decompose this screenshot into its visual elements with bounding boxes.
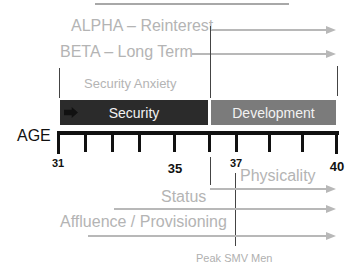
age-axis-label: AGE: [17, 127, 51, 145]
tick-32: [84, 131, 87, 152]
affluence-provisioning-label: Affluence / Provisioning: [60, 213, 227, 231]
physicality-arrow: [210, 188, 328, 190]
arrow-right-icon: [64, 107, 78, 118]
top-rule: [95, 3, 289, 5]
tick-40: [335, 131, 338, 154]
development-phase-bar: Development: [211, 100, 336, 125]
physicality-label: Physicality: [240, 167, 316, 185]
affluence-arrow: [88, 235, 328, 237]
age-36-marker-bottom: [210, 157, 211, 185]
tick-35: [173, 131, 176, 152]
peak-smv-men-label: Peak SMV Men: [196, 252, 272, 264]
status-label: Status: [161, 188, 206, 206]
development-label: Development: [232, 105, 315, 121]
alpha-arrow: [212, 29, 328, 31]
tick-34: [138, 131, 141, 152]
security-label: Security: [109, 105, 160, 121]
tick-39: [301, 131, 304, 152]
tick-31: [57, 131, 60, 154]
alpha-reinterest-label: ALPHA – Reinterest: [71, 17, 213, 35]
security-phase-bar: Security: [60, 100, 208, 125]
beta-arrow: [192, 53, 328, 55]
tick-label-40: 40: [330, 159, 344, 174]
age-axis-line: [57, 131, 339, 135]
beta-long-term-label: BETA – Long Term: [60, 43, 193, 61]
status-arrow: [114, 208, 328, 210]
tick-36: [208, 131, 211, 152]
security-anxiety-label: Security Anxiety: [84, 76, 177, 91]
tick-37: [235, 131, 238, 152]
tick-33: [111, 131, 114, 152]
left-bracket-line: [59, 68, 60, 98]
tick-label-31: 31: [52, 157, 64, 169]
age-36-marker-top: [210, 26, 211, 98]
right-bracket-line: [337, 66, 338, 96]
tick-38: [268, 131, 271, 152]
tick-label-35: 35: [168, 161, 182, 176]
